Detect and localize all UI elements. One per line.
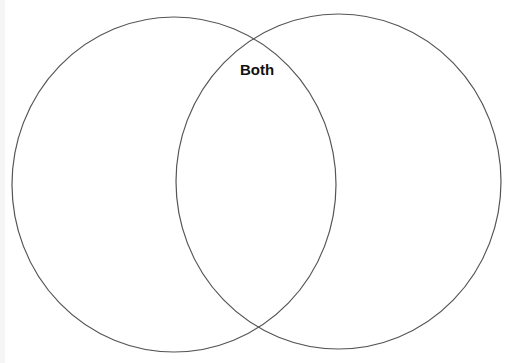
venn-diagram [0, 0, 508, 363]
intersection-label: Both [240, 62, 274, 77]
venn-circle-right [176, 14, 501, 349]
venn-circle-left [12, 17, 336, 352]
